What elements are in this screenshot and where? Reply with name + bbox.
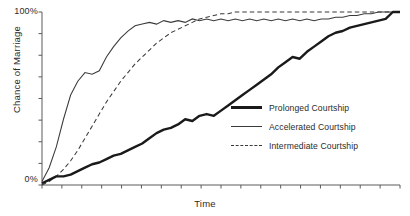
- series-line-accelerated-courtship: [42, 12, 400, 182]
- legend-item-accelerated-courtship: Accelerated Courtship: [231, 117, 403, 136]
- legend-item-intermediate-courtship: Intermediate Courtship: [231, 136, 403, 155]
- y-axis-title: Chance of Marriage: [11, 0, 22, 140]
- legend-swatch-thick-solid-icon: [231, 103, 262, 112]
- x-axis-title: Time: [150, 198, 260, 209]
- legend-label: Intermediate Courtship: [269, 141, 358, 151]
- legend-label: Accelerated Courtship: [269, 122, 356, 132]
- chart-legend: Prolonged Courtship Accelerated Courtshi…: [231, 98, 403, 155]
- legend-swatch-thin-solid-icon: [231, 122, 262, 131]
- legend-item-prolonged-courtship: Prolonged Courtship: [231, 98, 403, 117]
- legend-label: Prolonged Courtship: [269, 103, 349, 113]
- y-axis-min-label: 0%: [6, 174, 38, 184]
- x-axis-ticks: [42, 185, 400, 189]
- legend-swatch-dashed-icon: [231, 141, 262, 150]
- y-axis-ticks: [39, 12, 43, 185]
- chart-figure: 100% 0% Chance of Marriage Time Prolonge…: [0, 0, 410, 216]
